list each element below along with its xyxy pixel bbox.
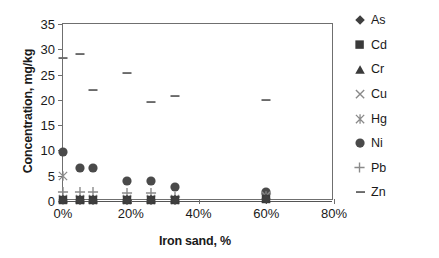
data-point-pb [261,188,272,199]
legend: AsCdCrCuHgNiPbZn [352,8,437,205]
legend-label: Zn [371,185,386,199]
data-point-zn [59,56,68,60]
y-axis-tick-label: 20 [41,92,55,107]
data-point-ni [58,147,68,157]
x-axis-tick-label: 20% [118,206,144,221]
data-point-as [146,195,156,205]
data-point-cu [170,194,180,204]
data-point-cu [75,194,85,204]
data-point-pb [88,186,99,197]
data-point-ni [146,176,156,186]
y-axis-title: Concentration, mg/kg [21,21,35,201]
legend-item-pb[interactable]: Pb [352,156,437,181]
square-marker-icon [352,40,368,49]
x-axis-tick-label: 40% [185,206,211,221]
legend-item-ni[interactable]: Ni [352,131,437,156]
x-axis-tick [334,199,335,204]
y-axis-tick [58,75,63,76]
data-point-hg [170,195,180,205]
circle-marker-icon [352,138,368,148]
x-axis-tick [266,199,267,204]
data-point-pb [122,187,133,198]
data-point-zn [123,71,132,75]
plot-area: 051015202530350%20%40%60%80% [62,23,333,200]
y-axis-tick [58,24,63,25]
data-point-hg [88,195,98,205]
x-axis-title: Iron sand, % [55,234,335,248]
y-axis-tick-label: 30 [41,42,55,57]
legend-label: Pb [371,161,386,175]
y-axis-tick-label: 10 [41,143,55,158]
data-point-pb [146,187,157,198]
diamond-marker-icon [352,15,368,25]
data-point-cr [170,195,180,204]
plus-marker-icon [352,162,368,173]
x-axis-tick-label: 0% [54,206,73,221]
plot-layer [63,24,332,199]
data-point-zn [147,100,156,104]
data-point-ni [75,163,85,173]
legend-label: Cd [371,38,387,52]
legend-item-cr[interactable]: Cr [352,57,437,82]
y-axis-tick-label: 35 [41,17,55,32]
x-axis-tick [63,199,64,204]
x-axis-tick-label: 80% [321,206,347,221]
x-axis-tick [131,199,132,204]
legend-label: Cr [371,62,384,76]
data-point-hg [75,195,85,205]
y-axis-tick-label: 25 [41,67,55,82]
data-point-cu [146,194,156,204]
y-axis-tick [58,100,63,101]
data-point-pb [57,187,68,198]
data-point-zn [75,52,84,56]
y-axis-tick-label: 5 [48,168,55,183]
y-axis-tick [58,150,63,151]
zero-baseline [63,201,332,202]
legend-item-zn[interactable]: Zn [352,180,437,205]
legend-label: Ni [371,136,383,150]
data-point-ni [170,182,180,192]
x-axis-tick-label: 60% [253,206,279,221]
dash-marker-icon [352,190,368,194]
legend-item-as[interactable]: As [352,8,437,33]
chart-figure: Concentration, mg/kg Iron sand, % 051015… [0,0,439,258]
data-point-as [88,195,98,205]
data-point-zn [170,94,179,98]
data-point-ni [261,187,271,197]
data-point-cr [146,195,156,204]
legend-item-hg[interactable]: Hg [352,106,437,131]
triangle-marker-icon [352,65,368,74]
data-point-cu [88,194,98,204]
data-point-hg [146,195,156,205]
data-point-pb [74,186,85,197]
y-axis-tick [58,125,63,126]
y-axis-tick [58,49,63,50]
legend-label: Cu [371,87,387,101]
data-point-ni [122,176,132,186]
y-axis-tick [58,176,63,177]
legend-label: As [371,13,386,27]
data-point-zn [262,98,271,102]
legend-label: Hg [371,112,387,126]
legend-item-cd[interactable]: Cd [352,33,437,58]
data-point-ni [88,163,98,173]
legend-item-cu[interactable]: Cu [352,82,437,107]
data-point-cr [75,195,85,204]
cross-marker-icon [352,89,368,99]
data-point-cr [88,195,98,204]
y-axis-tick-label: 15 [41,118,55,133]
data-point-as [170,195,180,205]
data-point-as [75,195,85,205]
star-marker-icon [352,114,368,124]
x-axis-tick [199,199,200,204]
data-point-zn [89,88,98,92]
